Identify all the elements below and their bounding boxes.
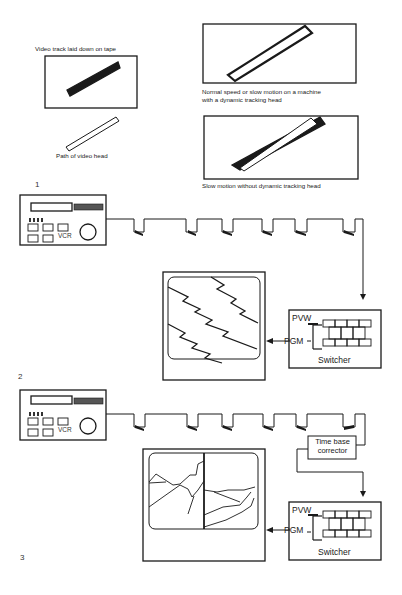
monitor-3 xyxy=(143,449,265,561)
figure-number-3: 3 xyxy=(20,553,24,562)
tracked-path-icon xyxy=(228,26,312,81)
mistracked-head-icon xyxy=(240,118,317,171)
head-path-icon xyxy=(66,117,119,151)
tape-path-2 xyxy=(106,219,363,297)
switcher-label-3: Switcher xyxy=(318,547,351,557)
tbc-line-2: corrector xyxy=(310,446,355,455)
switcher-label-2: Switcher xyxy=(318,355,351,365)
tbc-line-1: Time base xyxy=(310,437,355,446)
vcr-label-3: VCR xyxy=(58,426,72,433)
pgm-label-3: PGM xyxy=(284,525,303,535)
pvw-label-3: PVW xyxy=(292,505,311,515)
diagram-artwork xyxy=(0,0,402,595)
time-base-corrector-label: Time base corrector xyxy=(310,437,355,455)
pvw-label-2: PVW xyxy=(292,313,311,323)
pgm-label-2: PGM xyxy=(284,336,303,346)
vcr-label-2: VCR xyxy=(58,232,72,239)
video-track-icon xyxy=(67,62,120,96)
figure-number-2: 2 xyxy=(18,372,22,381)
monitor-2 xyxy=(163,272,265,380)
